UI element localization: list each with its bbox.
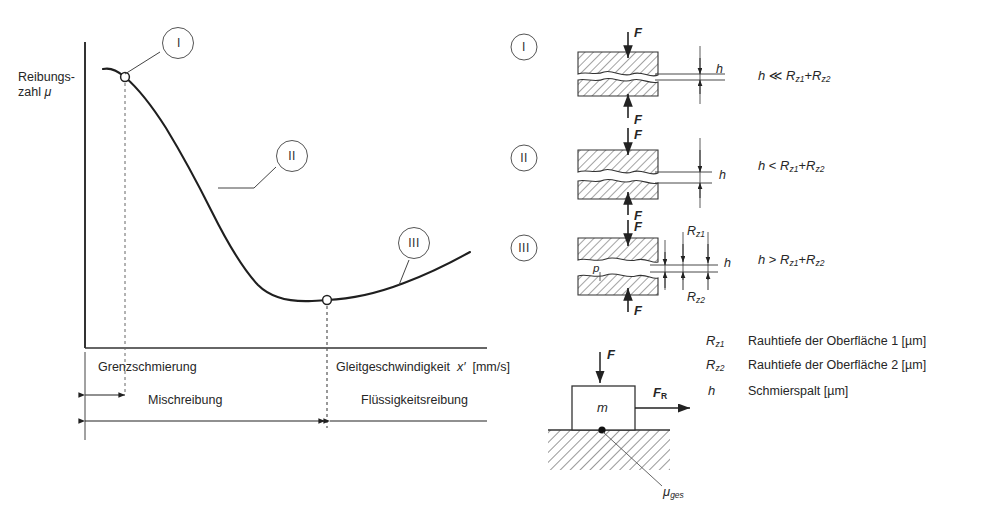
regime-1-rel-lhs: h xyxy=(758,68,765,83)
block-mass-label: m xyxy=(597,400,608,415)
figure-canvas: Reibungs- zahl μ Gleitgeschwindigkeit x′… xyxy=(0,0,999,514)
plot-axes xyxy=(85,42,487,348)
regime-1-pictogram xyxy=(511,32,725,118)
regime-3-rough-bot-sub: z2 xyxy=(696,295,705,305)
legend-symbol-0-sym: R xyxy=(706,333,715,348)
y-axis-label-line2: zahl xyxy=(18,85,41,99)
regime-1-rel-plus: + xyxy=(804,68,812,83)
callout-label-1: I xyxy=(171,36,187,50)
block-friction-force-sub: R xyxy=(661,391,667,401)
legend-text-2: Schmierspalt [µm] xyxy=(748,384,848,398)
callout-label-2: II xyxy=(284,149,300,163)
regime-2-relation: h < Rz1+Rz2 xyxy=(758,158,824,174)
regime-2-force-top-label: F xyxy=(634,127,642,142)
plot-dashed-guides xyxy=(125,77,327,428)
regime-3-roughness-top-label: Rz1 xyxy=(687,224,705,239)
legend-symbol-2: h xyxy=(708,383,715,398)
regime-2-rel-r2-sub: z2 xyxy=(815,164,824,174)
block-on-surface-diagram xyxy=(548,352,690,486)
legend-symbol-2-sym: h xyxy=(708,383,715,398)
regime-1-force-bottom-label: F xyxy=(634,112,642,127)
callout-leader-2 xyxy=(218,141,308,189)
regime-1-gap-label: h xyxy=(716,62,723,77)
x-axis-label-text: Gleitgeschwindigkeit xyxy=(336,360,450,374)
x-axis-unit: [mm/s] xyxy=(472,360,510,374)
y-axis-label-line1: Reibungs- xyxy=(18,70,75,84)
regime-3-force-bottom-label: F xyxy=(634,303,642,318)
regime-3-rel-lhs: h xyxy=(758,252,765,267)
x-axis-symbol: x′ xyxy=(457,360,466,374)
block-friction-force-label: FR xyxy=(653,385,667,401)
block-mu-label: μges xyxy=(663,484,684,500)
regime-3-rough-top-sym: R xyxy=(687,224,696,238)
regime-3-rough-bot-sym: R xyxy=(687,290,696,304)
regime-3-rough-top-sub: z1 xyxy=(696,229,705,239)
block-normal-force-label: F xyxy=(607,347,615,362)
legend-symbol-0: Rz1 xyxy=(706,333,724,349)
regime-3-marker: III xyxy=(516,241,532,255)
regime-2-marker: II xyxy=(516,151,532,165)
stribeck-curve xyxy=(103,69,470,302)
regime-1-force-top-label: F xyxy=(634,25,642,40)
block-friction-force-sym: F xyxy=(653,385,661,400)
block-mu-sub: ges xyxy=(670,490,684,500)
diagram-vector-layer xyxy=(0,0,999,514)
regime-2-rel-plus: + xyxy=(798,158,806,173)
callout-label-3: III xyxy=(406,236,422,250)
regime-2-gap-label: h xyxy=(719,168,726,183)
x-axis-label: Gleitgeschwindigkeit x′ [mm/s] xyxy=(336,360,510,375)
legend-symbol-1-sub: z2 xyxy=(715,363,724,373)
region-label-mixed: Mischreibung xyxy=(148,393,222,408)
region-label-fluid: Flüssigkeitsreibung xyxy=(361,393,468,408)
regime-3-rel-plus: + xyxy=(798,252,806,267)
y-axis-label: Reibungs- zahl μ xyxy=(18,70,75,100)
regime-1-rel-op: ≪ xyxy=(769,68,783,83)
regime-2-rel-lhs: h xyxy=(758,158,765,173)
regime-1-rel-r2-sub: z2 xyxy=(821,74,830,84)
regime-3-rel-r2-sub: z2 xyxy=(815,258,824,268)
regime-3-pressure-label: p xyxy=(593,262,599,276)
regime-1-marker: I xyxy=(516,40,532,54)
regime-1-relation: h ≪ Rz1+Rz2 xyxy=(758,68,830,84)
y-axis-label-symbol: μ xyxy=(44,85,51,99)
regime-2-rel-op: < xyxy=(769,158,777,173)
regime-3-rel-op: > xyxy=(769,252,777,267)
region-label-boundary: Grenzschmierung xyxy=(98,360,197,375)
regime-3-gap-label: h xyxy=(724,256,731,271)
callout-leader-1 xyxy=(125,28,194,75)
regime-2-pictogram xyxy=(511,128,712,215)
legend-symbol-1: Rz2 xyxy=(706,357,724,373)
regime-3-roughness-bottom-label: Rz2 xyxy=(687,290,705,305)
regime-3-relation: h > Rz1+Rz2 xyxy=(758,252,824,268)
legend-symbol-1-sym: R xyxy=(706,357,715,372)
legend-text-1: Rauhtiefe der Oberfläche 2 [µm] xyxy=(748,358,926,372)
legend-text-0: Rauhtiefe der Oberfläche 1 [µm] xyxy=(748,334,926,348)
regime-3-force-top-label: F xyxy=(634,219,642,234)
legend-symbol-0-sub: z1 xyxy=(715,339,724,349)
